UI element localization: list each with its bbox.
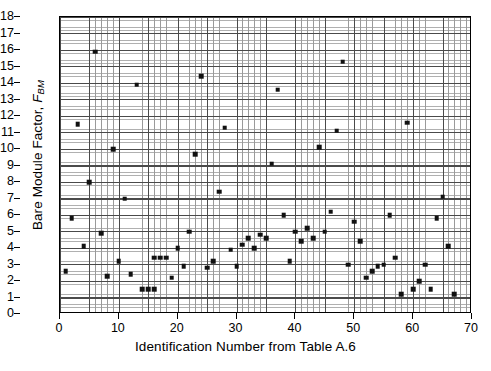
y-axis-tick-label: 17 <box>0 26 14 39</box>
y-axis-title: Bare Module Factor, FBM <box>30 25 46 285</box>
data-point <box>411 287 416 292</box>
x-axis-tick <box>236 313 237 319</box>
data-point <box>140 287 145 292</box>
data-point <box>211 259 216 264</box>
data-point <box>87 180 92 185</box>
data-point <box>417 279 422 284</box>
data-point <box>370 269 375 274</box>
data-point <box>340 59 345 64</box>
x-axis-title: Identification Number from Table A.6 <box>0 339 491 354</box>
data-point <box>376 264 381 269</box>
data-point <box>381 262 386 267</box>
data-point <box>281 213 286 218</box>
y-axis-tick <box>14 49 20 50</box>
x-axis-tick <box>412 313 413 319</box>
data-point <box>364 275 369 280</box>
y-axis-tick-label: 12 <box>0 109 14 122</box>
data-point <box>170 275 175 280</box>
y-axis-tick <box>14 132 20 133</box>
data-point <box>299 239 304 244</box>
y-axis-tick <box>14 66 20 67</box>
data-point <box>122 196 127 201</box>
y-axis-tick <box>14 198 20 199</box>
y-axis-tick <box>14 165 20 166</box>
data-point <box>199 74 204 79</box>
data-point <box>152 287 157 292</box>
data-point <box>181 264 186 269</box>
y-axis-tick <box>14 16 20 17</box>
y-axis-tick-label: 8 <box>7 175 14 188</box>
data-point <box>293 229 298 234</box>
y-axis-tick-label: 10 <box>0 142 14 155</box>
data-point <box>146 287 151 292</box>
y-axis-tick <box>14 264 20 265</box>
y-axis-tick <box>14 148 20 149</box>
y-axis-tick <box>14 313 20 314</box>
x-axis-tick <box>294 313 295 319</box>
x-axis-tick-label: 20 <box>170 322 184 335</box>
data-point <box>323 229 328 234</box>
data-point <box>228 247 233 252</box>
y-axis-tick <box>14 297 20 298</box>
y-axis-tick-label: 18 <box>0 10 14 23</box>
y-axis-tick <box>14 33 20 34</box>
data-point <box>205 266 210 271</box>
data-point <box>187 229 192 234</box>
y-axis-tick-label: 14 <box>0 76 14 89</box>
data-point <box>328 209 333 214</box>
data-point <box>393 256 398 261</box>
data-point <box>446 244 451 249</box>
plot-area <box>59 16 471 313</box>
data-point <box>234 264 239 269</box>
y-axis-tick <box>14 231 20 232</box>
data-point <box>440 195 445 200</box>
x-axis-tick <box>118 313 119 319</box>
data-point <box>99 231 104 236</box>
y-axis-title-text: Bare Module Factor, <box>30 107 45 230</box>
data-point <box>317 145 322 150</box>
y-axis-tick-label: 16 <box>0 43 14 56</box>
data-point <box>399 292 404 297</box>
y-axis-tick-label: 1 <box>7 290 14 303</box>
data-point <box>217 190 222 195</box>
y-axis-tick-label: 13 <box>0 92 14 105</box>
data-point <box>334 129 339 134</box>
y-axis-tick <box>14 82 20 83</box>
data-point <box>93 49 98 54</box>
data-point <box>152 256 157 261</box>
data-point <box>69 216 74 221</box>
data-point <box>452 292 457 297</box>
data-point <box>429 287 434 292</box>
data-point <box>240 242 245 247</box>
data-point <box>423 262 428 267</box>
y-axis-tick <box>14 115 20 116</box>
y-axis-tick-label: 3 <box>7 257 14 270</box>
data-point <box>252 246 257 251</box>
data-point <box>305 226 310 231</box>
grid-lines <box>60 17 470 312</box>
data-point <box>246 236 251 241</box>
data-point <box>175 246 180 251</box>
x-axis-tick-label: 50 <box>346 322 360 335</box>
y-axis-symbol: F <box>30 94 45 102</box>
y-axis-tick <box>14 99 20 100</box>
y-axis-tick <box>14 181 20 182</box>
data-point <box>193 152 198 157</box>
data-point <box>105 274 110 279</box>
data-point <box>75 122 80 127</box>
y-axis-tick-label: 4 <box>7 241 14 254</box>
data-point <box>352 219 357 224</box>
y-axis-tick <box>14 214 20 215</box>
x-axis-tick-label: 40 <box>287 322 301 335</box>
data-point <box>81 244 86 249</box>
data-point <box>287 259 292 264</box>
x-axis-tick <box>59 313 60 319</box>
x-axis-tick-label: 10 <box>111 322 125 335</box>
data-point <box>134 82 139 87</box>
y-axis-subscript: BM <box>35 80 46 94</box>
x-axis-tick <box>471 313 472 319</box>
x-axis-tick-label: 0 <box>56 322 63 335</box>
y-axis-tick-label: 15 <box>0 59 14 72</box>
x-axis-tick <box>353 313 354 319</box>
y-axis-tick-label: 5 <box>7 224 14 237</box>
